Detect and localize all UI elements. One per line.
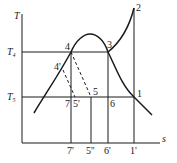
dome-top-curve xyxy=(71,34,108,52)
point-6-label: 6 xyxy=(110,98,115,109)
point-5-label: 5 xyxy=(93,86,98,97)
ts-diagram: T s T4 T5 7' 5'' 6' 1' 1 2 3 4 4' 5 5' 6… xyxy=(0,0,177,163)
dashed-4-5 xyxy=(71,52,91,97)
tick-t4: T4 xyxy=(7,46,16,58)
point-4-label: 4 xyxy=(65,41,70,52)
point-5prime-label: 5' xyxy=(73,98,80,109)
tick-7prime: 7' xyxy=(67,145,74,156)
tick-1prime: 1' xyxy=(130,145,137,156)
point-3-label: 3 xyxy=(107,39,112,50)
tick-5dblprime: 5'' xyxy=(86,145,95,156)
point-2-label: 2 xyxy=(136,2,141,13)
dashed-4prime-5prime xyxy=(63,70,75,97)
tick-t5: T5 xyxy=(7,91,16,103)
s-axis-label: s xyxy=(162,133,166,144)
point-7-label: 7 xyxy=(65,98,70,109)
t-axis-label: T xyxy=(14,10,21,21)
point-1-label: 1 xyxy=(137,88,142,99)
point-4prime-label: 4' xyxy=(54,61,61,72)
tick-6prime: 6' xyxy=(104,145,111,156)
